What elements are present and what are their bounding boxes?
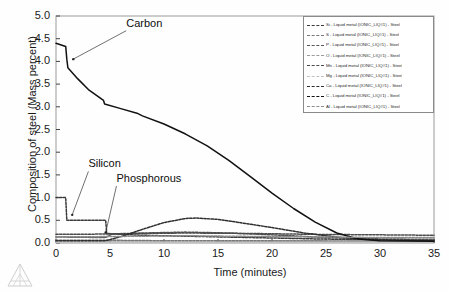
x-tick-5: 5 — [95, 247, 125, 259]
legend-item-7[interactable]: C - Liquid metal (IONIC_LIQ#1) - Steel — [307, 91, 431, 101]
annotation-leader-carbon — [73, 31, 126, 59]
legend-marker-icon — [307, 21, 324, 29]
legend-item-5[interactable]: Mg - Liquid metal (IONIC_LIQ#1) - Steel — [307, 71, 431, 81]
legend-marker-icon — [307, 72, 324, 80]
legend-label: Al - Liquid metal (IONIC_LIQ#1) - Steel — [326, 102, 400, 112]
legend-label: Ca - Liquid metal (IONIC_LIQ#1) - Steel — [326, 81, 402, 91]
legend-item-8[interactable]: Al - Liquid metal (IONIC_LIQ#1) - Steel — [307, 102, 431, 112]
y-tick-2.0: 2.0 — [20, 145, 50, 157]
legend-label: C - Liquid metal (IONIC_LIQ#1) - Steel — [326, 91, 400, 101]
x-tick-20: 20 — [257, 247, 287, 259]
x-tick-35: 35 — [419, 247, 449, 259]
y-tick-1.0: 1.0 — [20, 191, 50, 203]
series-line-Mn — [56, 233, 434, 235]
y-tick-3.0: 3.0 — [20, 100, 50, 112]
legend-label: O - Liquid metal (IONIC_LIQ#1) - Steel — [326, 51, 400, 61]
x-tick-30: 30 — [365, 247, 395, 259]
x-tick-0: 0 — [41, 247, 71, 259]
legend-item-0[interactable]: Si - Liquid metal (IONIC_LIQ#1) - Steel — [307, 20, 431, 30]
legend-marker-icon — [307, 31, 324, 39]
legend-label: Mn - Liquid metal (IONIC_LIQ#1) - Steel — [326, 61, 402, 71]
x-tick-15: 15 — [203, 247, 233, 259]
legend-marker-icon — [307, 82, 324, 90]
y-tick-3.5: 3.5 — [20, 77, 50, 89]
legend-marker-icon — [307, 41, 324, 49]
annotation-carbon: Carbon — [126, 17, 162, 29]
legend-marker-icon — [307, 62, 324, 70]
legend-item-1[interactable]: S - Liquid metal (IONIC_LIQ#1) - Steel — [307, 30, 431, 40]
x-axis-title: Time (minutes) — [150, 266, 350, 278]
annotation-phosphorous: Phosphorous — [116, 172, 181, 184]
legend-label: Si - Liquid metal (IONIC_LIQ#1) - Steel — [326, 20, 400, 30]
annotation-leader-phosphorous — [106, 186, 117, 233]
x-tick-25: 25 — [311, 247, 341, 259]
legend-item-3[interactable]: O - Liquid metal (IONIC_LIQ#1) - Steel — [307, 51, 431, 61]
y-tick-4.0: 4.0 — [20, 54, 50, 66]
legend-marker-icon — [307, 52, 324, 60]
legend-marker-icon — [307, 92, 324, 100]
y-tick-0.5: 0.5 — [20, 213, 50, 225]
chart-figure: Composition of steel (Mass percent) Time… — [0, 0, 449, 292]
legend-item-2[interactable]: P - Liquid metal (IONIC_LIQ#1) - Steel — [307, 40, 431, 50]
legend-item-4[interactable]: Mn - Liquid metal (IONIC_LIQ#1) - Steel — [307, 61, 431, 71]
annotation-silicon: Silicon — [88, 157, 120, 169]
y-tick-2.5: 2.5 — [20, 123, 50, 135]
y-tick-4.5: 4.5 — [20, 32, 50, 44]
legend-label: Mg - Liquid metal (IONIC_LIQ#1) - Steel — [326, 71, 402, 81]
y-tick-1.5: 1.5 — [20, 168, 50, 180]
legend-item-6[interactable]: Ca - Liquid metal (IONIC_LIQ#1) - Steel — [307, 81, 431, 91]
x-tick-10: 10 — [149, 247, 179, 259]
legend-marker-icon — [307, 103, 324, 111]
watermark-logo — [6, 262, 34, 288]
legend-label: S - Liquid metal (IONIC_LIQ#1) - Steel — [326, 30, 399, 40]
y-tick-5.0: 5.0 — [20, 9, 50, 21]
chart-legend: Si - Liquid metal (IONIC_LIQ#1) - SteelS… — [303, 16, 434, 113]
legend-label: P - Liquid metal (IONIC_LIQ#1) - Steel — [326, 40, 399, 50]
annotation-leader-silicon — [72, 171, 88, 214]
